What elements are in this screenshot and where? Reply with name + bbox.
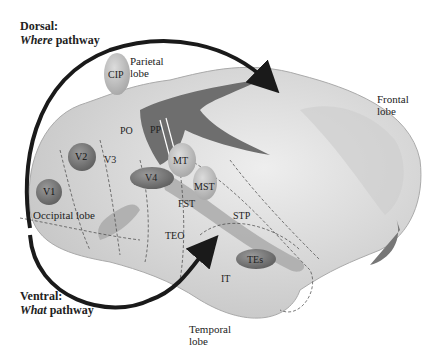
frontal-lobe-label: Frontallobe	[377, 93, 409, 117]
area-v3: V3	[104, 154, 116, 165]
area-po: PO	[120, 125, 133, 136]
parietal-lobe-label: Parietallobe	[130, 55, 164, 79]
area-cip: CIP	[108, 69, 124, 80]
area-mst: MST	[194, 181, 215, 192]
area-pp: PP	[150, 124, 161, 135]
area-tes: TEs	[247, 254, 263, 265]
area-v1: V1	[43, 186, 55, 197]
area-v2: V2	[75, 151, 87, 162]
ventral-pathway-label: Ventral: What pathway	[20, 289, 94, 317]
area-teo: TEO	[165, 230, 184, 241]
area-mt: MT	[173, 155, 188, 166]
occipital-lobe-label: Occipital lobe	[33, 209, 95, 221]
area-fst: FST	[178, 198, 195, 209]
dorsal-pathway-label: Dorsal: Where pathway	[20, 19, 100, 47]
area-stp: STP	[233, 210, 250, 221]
area-v4: V4	[145, 172, 157, 183]
temporal-lobe-label: Temporallobe	[189, 323, 231, 347]
area-it: IT	[221, 273, 230, 284]
